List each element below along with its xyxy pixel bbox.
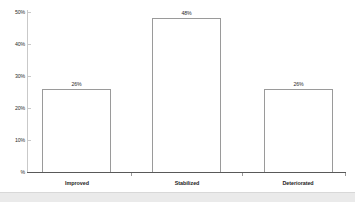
y-tick-mark-30 bbox=[28, 76, 31, 77]
x-tick-mark-1 bbox=[131, 173, 132, 176]
y-tick-label-30: 30% bbox=[1, 73, 25, 79]
y-tick-label-40: 40% bbox=[1, 41, 25, 47]
bar-value-deteriorated: 26% bbox=[264, 81, 333, 88]
y-tick-label-50: 50% bbox=[1, 9, 25, 15]
y-axis-line bbox=[27, 10, 28, 172]
bar-deteriorated[interactable] bbox=[264, 89, 333, 173]
x-axis-label-deteriorated: Deteriorated bbox=[259, 179, 337, 187]
bar-chart-figure: 50% 40% 30% 20% 10% % 26% 48% 26% Improv… bbox=[0, 0, 355, 202]
y-tick-label-0: % bbox=[1, 169, 25, 175]
x-axis-label-improved: Improved bbox=[38, 179, 116, 187]
x-tick-mark-2 bbox=[242, 173, 243, 176]
footer-strip bbox=[0, 192, 355, 202]
bar-value-stabilized: 48% bbox=[152, 10, 221, 17]
y-tick-mark-50 bbox=[28, 12, 31, 13]
x-tick-mark-3 bbox=[345, 173, 346, 176]
y-tick-label-20: 20% bbox=[1, 105, 25, 111]
x-axis-line bbox=[27, 172, 346, 173]
y-tick-mark-20 bbox=[28, 108, 31, 109]
bar-improved[interactable] bbox=[42, 89, 111, 173]
bar-value-improved: 26% bbox=[42, 81, 111, 88]
plot-area: 50% 40% 30% 20% 10% % 26% 48% 26% Improv… bbox=[0, 0, 355, 193]
y-tick-mark-10 bbox=[28, 140, 31, 141]
y-tick-mark-40 bbox=[28, 44, 31, 45]
bar-stabilized[interactable] bbox=[152, 18, 221, 173]
y-tick-label-10: 10% bbox=[1, 137, 25, 143]
x-axis-label-stabilized: Stabilized bbox=[148, 179, 226, 187]
